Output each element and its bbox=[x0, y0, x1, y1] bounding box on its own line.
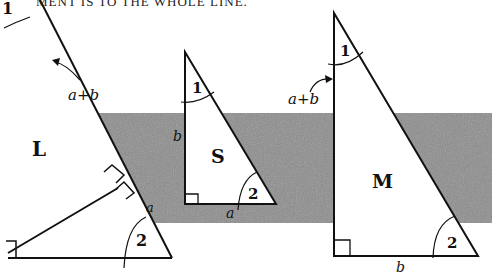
caption-text: MENT IS TO THE WHOLE LINE. bbox=[36, 0, 248, 10]
S-label: S bbox=[211, 145, 225, 167]
L-angle-2: 2 bbox=[136, 231, 147, 250]
L-label: L bbox=[32, 137, 46, 161]
M-label: M bbox=[372, 170, 393, 192]
S-side-a: a bbox=[226, 205, 234, 221]
L-side-a: a bbox=[146, 200, 154, 215]
S-angle-1: 1 bbox=[192, 79, 202, 97]
M-side-a-plus-b: a+b bbox=[288, 90, 319, 108]
L-angle-1: 1 bbox=[2, 0, 13, 18]
L-side-a-plus-b: a+b bbox=[68, 86, 99, 104]
S-angle-2: 2 bbox=[248, 185, 258, 203]
M-side-b: b bbox=[396, 259, 405, 274]
M-angle-2: 2 bbox=[447, 234, 457, 252]
M-angle-1: 1 bbox=[340, 42, 350, 60]
S-side-b: b bbox=[173, 128, 182, 144]
diagram: MENT IS TO THE WHOLE LINE. bbox=[0, 0, 495, 274]
triangles-figure: 1 a+b L a 2 1 b S 2 a 1 a+b bbox=[0, 0, 495, 274]
